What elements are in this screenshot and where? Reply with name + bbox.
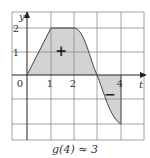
x-tick-0: 0 <box>17 78 23 89</box>
x-axis-arrow-icon <box>140 72 147 78</box>
x-tick-2: 2 <box>70 78 76 89</box>
caption: g(4) ≈ 3 <box>0 143 150 156</box>
x-tick-1: 1 <box>47 78 53 89</box>
area-function-figure: y t 2 1 0 1 2 4 + − <box>0 0 150 158</box>
y-tick-1: 1 <box>13 47 19 58</box>
negative-sign: − <box>104 86 116 102</box>
y-axis-label: y <box>18 11 25 22</box>
x-axis-label: t <box>139 79 144 90</box>
caption-text: g(4) ≈ 3 <box>52 143 98 156</box>
x-tick-4: 4 <box>117 78 123 89</box>
positive-sign: + <box>55 43 67 59</box>
y-tick-2: 2 <box>13 23 19 34</box>
